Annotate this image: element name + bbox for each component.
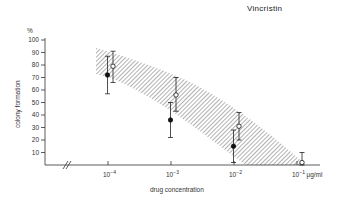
y-axis-label: colony formation	[14, 80, 22, 128]
filled-circle-marker	[168, 118, 172, 122]
open-circle-marker	[174, 93, 178, 97]
y-tick-label: 70	[32, 74, 40, 81]
y-tick-label: 40	[32, 111, 40, 118]
filled-circle-marker	[105, 73, 109, 77]
open-circle-marker	[300, 160, 304, 164]
open-circle-marker	[237, 124, 241, 128]
x-tick-label: 10−2	[229, 169, 242, 178]
x-axis-label: drug concentration	[150, 186, 204, 194]
y-tick-label: 100	[28, 36, 39, 43]
x-tick-label: 10−1µg/ml	[292, 169, 323, 179]
y-tick-label: 50	[32, 99, 40, 106]
y-unit-label: %	[27, 27, 33, 34]
open-data-point	[300, 153, 305, 166]
hatched-band	[96, 48, 306, 165]
open-circle-marker	[111, 64, 115, 68]
y-tick-label: 60	[32, 86, 40, 93]
y-ticks: 102030405060708090100	[28, 36, 45, 156]
y-tick-label: 30	[32, 124, 40, 131]
x-tick-label: 10−3	[166, 169, 179, 178]
chart-canvas: 102030405060708090100 10−410−310−210−1µg…	[0, 0, 349, 202]
x-tick-label: 10−4	[103, 169, 116, 178]
y-tick-label: 80	[32, 61, 40, 68]
y-tick-label: 90	[32, 49, 40, 56]
y-tick-label: 10	[32, 149, 40, 156]
filled-circle-marker	[231, 144, 235, 148]
y-tick-label: 20	[32, 136, 40, 143]
